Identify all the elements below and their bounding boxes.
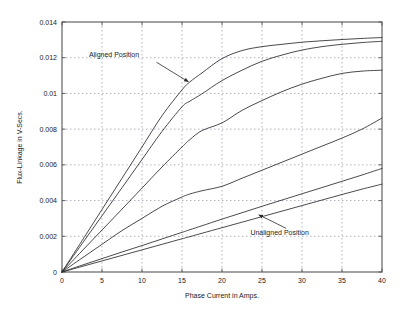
x-tick-label: 35	[338, 277, 346, 284]
y-tick-label: 0.014	[39, 19, 57, 26]
x-tick-label: 25	[258, 277, 266, 284]
y-tick-label: 0.002	[39, 233, 57, 240]
annotation-label-1: Aligned Position	[89, 51, 139, 59]
y-tick-label: 0	[53, 269, 57, 276]
x-tick-label: 15	[178, 277, 186, 284]
flux-linkage-chart: 0510152025303540 00.0020.0040.0060.0080.…	[0, 0, 401, 320]
y-tick-label: 0.006	[39, 161, 57, 168]
x-tick-label: 40	[378, 277, 386, 284]
x-tick-label: 10	[138, 277, 146, 284]
y-tick-label: 0.008	[39, 126, 57, 133]
y-tick-label: 0.012	[39, 54, 57, 61]
y-tick-label: 0.004	[39, 197, 57, 204]
x-tick-label: 0	[60, 277, 64, 284]
x-tick-label: 30	[298, 277, 306, 284]
x-tick-label: 20	[218, 277, 226, 284]
x-axis-title: Phase Current in Amps.	[185, 292, 259, 300]
annotation-label-2: Unaligned Position	[250, 229, 308, 237]
x-tick-label: 5	[100, 277, 104, 284]
y-axis-title: Flux-Linkage in V-Secs.	[16, 110, 24, 184]
y-tick-label: 0.01	[43, 90, 57, 97]
chart-figure: 0510152025303540 00.0020.0040.0060.0080.…	[0, 0, 401, 320]
